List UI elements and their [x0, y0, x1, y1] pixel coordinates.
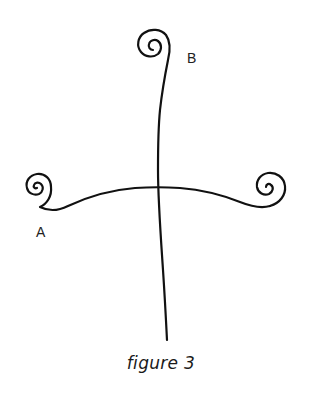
caption-text: figure 3 — [127, 353, 195, 373]
label-b: B — [187, 51, 196, 65]
figure-caption: figure 3 — [0, 353, 314, 373]
right-spiral — [257, 173, 285, 206]
left-spiral-a — [27, 174, 270, 210]
horizontal-arm — [27, 173, 286, 210]
top-spiral-b — [138, 30, 169, 340]
figure-3-diagram — [0, 0, 314, 394]
label-a: A — [36, 225, 45, 239]
vertical-stem — [138, 30, 169, 340]
